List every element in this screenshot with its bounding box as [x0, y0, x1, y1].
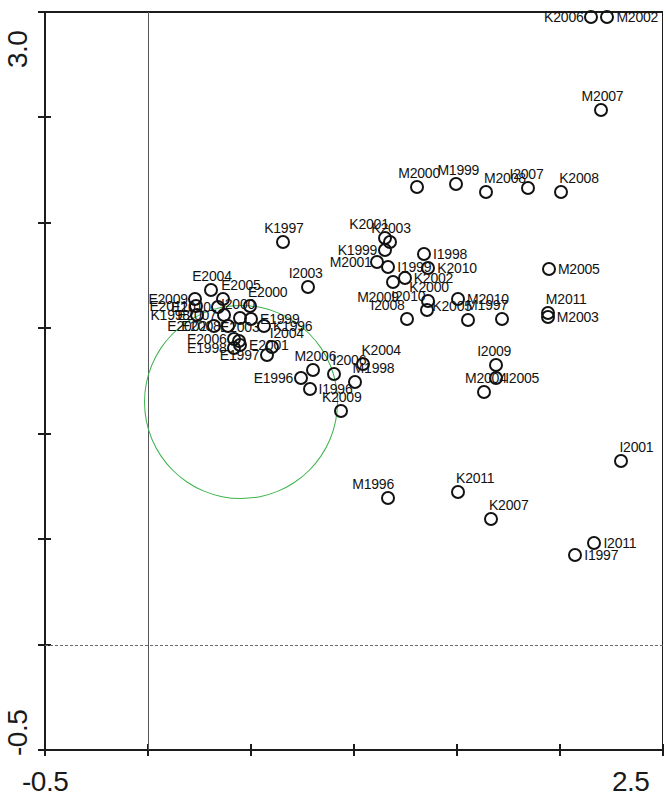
data-point-label: K2008 [559, 171, 598, 185]
data-point-marker [378, 243, 392, 257]
data-point-marker [327, 367, 341, 381]
data-point-label: I1998 [433, 247, 467, 261]
x-axis-tick [250, 744, 252, 756]
data-point-label: K2011 [456, 471, 494, 485]
x-axis-tick [353, 744, 355, 756]
x-axis-tick [662, 744, 664, 756]
data-point-marker [381, 260, 395, 274]
data-point-marker [334, 404, 348, 418]
data-point-marker [477, 385, 491, 399]
data-point-marker [381, 491, 395, 505]
data-point-marker [614, 454, 628, 468]
data-point-marker [410, 180, 424, 194]
data-point-label: I2003 [289, 266, 323, 280]
data-point-label: M2004 [465, 371, 507, 385]
data-point-marker [541, 310, 555, 324]
data-point-marker [542, 262, 556, 276]
data-point-label: M1996 [352, 477, 394, 491]
data-point-marker [451, 485, 465, 499]
plot-frame-right [662, 11, 663, 751]
data-point-marker [400, 312, 414, 326]
data-point-label: E1997 [220, 348, 259, 362]
data-point-label: M1997 [466, 298, 508, 312]
data-point-label: I1997 [584, 548, 618, 562]
data-point-marker [301, 280, 315, 294]
y-axis-tick [38, 433, 51, 435]
data-point-marker [260, 348, 274, 362]
data-point-label: I2005 [505, 371, 539, 385]
data-point-label: M1998 [353, 361, 395, 375]
data-point-label: I2009 [477, 344, 511, 358]
data-point-marker [554, 185, 568, 199]
y-axis-tick [38, 116, 51, 118]
y-axis-tick [38, 222, 51, 224]
data-point-label: I2008 [371, 298, 405, 312]
data-point-marker [461, 313, 475, 327]
data-point-label: M2007 [582, 89, 624, 103]
y-axis-tick [38, 11, 51, 13]
data-point-label: M2000 [398, 166, 440, 180]
data-point-marker [584, 10, 598, 24]
y-axis-tick [38, 538, 51, 540]
x-axis-right-tick-label: 2.5 [612, 766, 649, 798]
data-point-label: K2009 [322, 390, 361, 404]
x-axis-tick [559, 744, 561, 756]
data-point-label: K2003 [371, 221, 410, 235]
x-axis-left-tick-label: -0.5 [22, 766, 68, 798]
y-axis-tick [38, 327, 51, 329]
data-point-label: M2011 [546, 292, 587, 306]
data-point-label: I2004 [270, 326, 304, 340]
plot-frame-left [44, 11, 46, 751]
data-point-label: I2007 [509, 167, 543, 181]
data-point-marker [568, 548, 582, 562]
data-point-marker [594, 103, 608, 117]
data-point-label: M2001 [330, 255, 372, 269]
y-axis-bottom-tick-label: -0.5 [2, 710, 34, 756]
data-point-label: K1997 [264, 221, 303, 235]
data-point-label: K2006 [544, 10, 583, 24]
data-point-label: I2001 [619, 440, 653, 454]
data-point-label: I2000 [221, 297, 255, 311]
data-point-label: M1999 [437, 163, 479, 177]
data-point-label: K2007 [489, 498, 528, 512]
x-axis-tick [456, 744, 458, 756]
data-point-marker [600, 10, 614, 24]
data-point-label: M2003 [557, 310, 599, 324]
data-point-label: M2005 [558, 262, 600, 276]
data-point-label: M2002 [616, 10, 658, 24]
data-point-marker [521, 181, 535, 195]
data-point-label: E1996 [254, 371, 293, 385]
data-point-marker [484, 512, 498, 526]
data-point-marker [479, 185, 493, 199]
scatter-plot-canvas: 3.0 -0.5 -0.5 2.5 K2006M2002M2007M2000M1… [0, 0, 668, 803]
horizontal-zero-line [45, 645, 663, 646]
data-point-label: E2003 [220, 320, 259, 334]
data-point-marker [386, 275, 400, 289]
x-axis-tick [44, 744, 46, 756]
data-point-marker [449, 177, 463, 191]
data-point-label: M2006 [294, 349, 336, 363]
data-point-marker [276, 235, 290, 249]
y-axis-top-tick-label: 3.0 [2, 31, 34, 68]
data-point-marker [303, 382, 317, 396]
data-point-label: K2004 [361, 343, 400, 357]
data-point-marker [495, 312, 509, 326]
